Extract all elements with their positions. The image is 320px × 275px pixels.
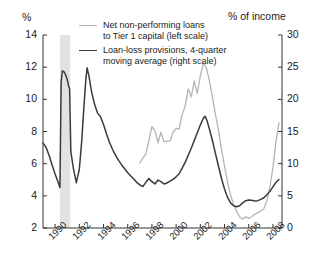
series-line-2 — [43, 68, 279, 207]
left-tick-label: 14 — [13, 28, 37, 40]
series-line-1 — [140, 63, 279, 219]
left-tick-label: 6 — [13, 157, 37, 169]
right-tick-label: 20 — [287, 92, 311, 104]
left-tick-label: 8 — [13, 125, 37, 137]
right-tick-label: 30 — [287, 28, 311, 40]
legend-label-1: Net non-performing loansto Tier 1 capita… — [103, 20, 208, 41]
legend-label-line1: Net non-performing loans — [103, 20, 208, 31]
legend-label-line1: Loan-loss provisions, 4-quarter — [103, 45, 227, 56]
left-tick-label: 12 — [13, 60, 37, 72]
recession-band — [60, 35, 70, 228]
legend-label-line2: moving average (right scale) — [103, 56, 227, 67]
legend-label-line2: to Tier 1 capital (left scale) — [103, 31, 208, 42]
chart-container: % % of income 24681012140510152025301990… — [0, 0, 320, 275]
left-tick-label: 10 — [13, 92, 37, 104]
legend-label-2: Loan-loss provisions, 4-quartermoving av… — [103, 45, 227, 66]
left-tick-label: 4 — [13, 189, 37, 201]
legend-swatch-1 — [79, 25, 97, 26]
right-tick-label: 5 — [287, 189, 311, 201]
legend-swatch-2 — [79, 50, 97, 51]
right-tick-label: 25 — [287, 60, 311, 72]
right-tick-label: 10 — [287, 157, 311, 169]
right-tick-label: 0 — [287, 221, 311, 233]
left-tick-label: 2 — [13, 221, 37, 233]
right-tick-label: 15 — [287, 125, 311, 137]
